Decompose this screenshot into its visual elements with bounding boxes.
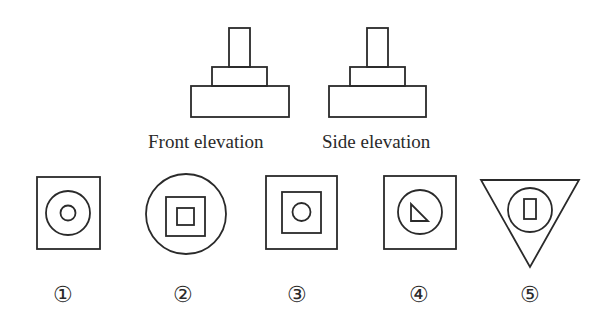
option-4-shape[interactable] <box>384 176 456 249</box>
diagram-canvas <box>0 0 609 326</box>
option-3-label[interactable]: ③ <box>287 282 307 308</box>
option-1-shape[interactable] <box>37 177 100 249</box>
option-2-shape[interactable] <box>146 174 226 254</box>
option-2-label[interactable]: ② <box>173 282 193 308</box>
option-5-label[interactable]: ⑤ <box>520 282 540 308</box>
option-4-label[interactable]: ④ <box>409 282 429 308</box>
front-elevation-label: Front elevation <box>148 131 264 153</box>
side-elevation-label: Side elevation <box>322 131 430 153</box>
option-5-shape[interactable] <box>481 180 579 267</box>
side-elevation-drawing <box>329 28 426 117</box>
option-1-label[interactable]: ① <box>53 282 73 308</box>
option-3-shape[interactable] <box>266 176 337 249</box>
front-elevation-drawing <box>191 28 289 117</box>
